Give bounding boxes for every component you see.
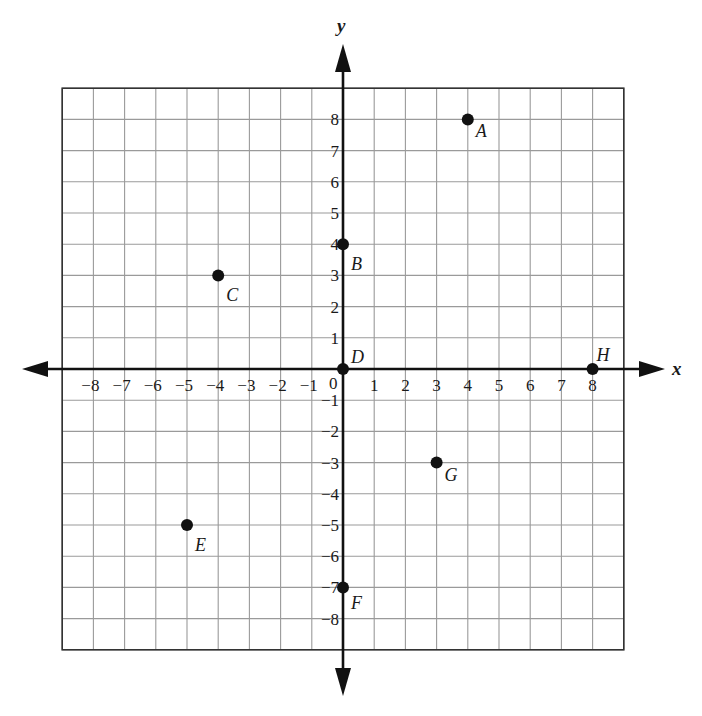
x-tick-label: 1 [370, 376, 379, 395]
x-tick-label: 6 [526, 376, 535, 395]
point-label: A [475, 121, 488, 141]
y-tick-label: 2 [331, 298, 340, 317]
y-axis-label: y [335, 15, 346, 36]
point-a: A [462, 113, 488, 141]
x-tick-label: −8 [81, 376, 99, 395]
y-tick-label: −7 [321, 578, 340, 597]
x-tick-label: −4 [206, 376, 225, 395]
x-axis-label: x [671, 358, 682, 379]
y-tick-label: 8 [331, 110, 340, 129]
point-label: D [350, 347, 364, 367]
point-label: H [596, 345, 611, 365]
x-tick-label: 5 [495, 376, 504, 395]
x-tick-label: 4 [464, 376, 473, 395]
point-c: C [212, 269, 239, 305]
y-tick-label: −8 [321, 610, 339, 629]
point-label: C [226, 285, 239, 305]
point-label: B [351, 254, 362, 274]
x-tick-label: −6 [144, 376, 162, 395]
x-axis-right-arrow-icon [639, 361, 665, 377]
x-tick-label: 3 [432, 376, 441, 395]
x-tick-labels: −8−7−6−5−4−3−2−112345678 [81, 376, 596, 395]
x-tick-label: −5 [175, 376, 193, 395]
point-f: F [337, 581, 363, 613]
x-tick-label: 8 [588, 376, 597, 395]
y-tick-label: −5 [321, 516, 339, 535]
y-tick-label: 6 [331, 173, 340, 192]
y-axis-up-arrow-icon [335, 44, 351, 72]
origin-label: 0 [329, 374, 338, 393]
x-tick-label: −2 [269, 376, 287, 395]
point-label: E [194, 535, 206, 555]
point-label: G [445, 465, 458, 485]
plotted-points: ABCDEFGH [181, 113, 611, 613]
point-b: B [337, 238, 362, 274]
point-marker-icon [212, 269, 224, 281]
point-marker-icon [337, 363, 349, 375]
y-axis-down-arrow-icon [335, 668, 351, 696]
y-tick-label: −2 [321, 422, 339, 441]
y-tick-label: 7 [331, 142, 340, 161]
x-tick-label: −7 [113, 376, 132, 395]
point-h: H [587, 345, 611, 375]
point-marker-icon [181, 519, 193, 531]
point-e: E [181, 519, 206, 555]
y-tick-label: 3 [331, 266, 340, 285]
coordinate-plane: −8−7−6−5−4−3−2−112345678 −8−7−6−5−4−3−2−… [0, 0, 702, 716]
y-tick-label: −4 [321, 485, 340, 504]
y-tick-label: −1 [321, 391, 339, 410]
x-tick-label: −3 [237, 376, 255, 395]
y-tick-label: 1 [331, 329, 340, 348]
point-d: D [337, 347, 364, 375]
x-tick-label: 7 [557, 376, 566, 395]
point-g: G [431, 457, 458, 485]
point-marker-icon [431, 457, 443, 469]
x-axis-left-arrow-icon [22, 361, 48, 377]
y-tick-label: 5 [331, 204, 340, 223]
y-tick-label: −3 [321, 454, 339, 473]
point-marker-icon [462, 113, 474, 125]
point-label: F [350, 593, 363, 613]
x-tick-label: −1 [300, 376, 318, 395]
point-marker-icon [337, 238, 349, 250]
y-tick-label: −6 [321, 547, 339, 566]
x-tick-label: 2 [401, 376, 410, 395]
point-marker-icon [337, 581, 349, 593]
